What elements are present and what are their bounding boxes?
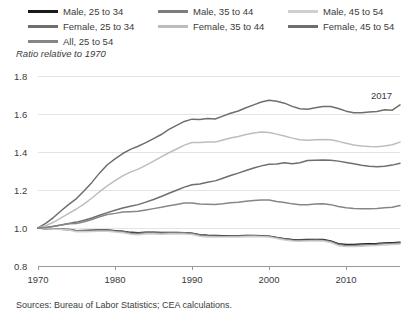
legend-label-female-25-34: Female, 25 to 34	[63, 21, 134, 32]
x-tick-mark-1980	[115, 266, 116, 270]
x-tick-mark-2010	[346, 266, 347, 270]
line-female-45-to-54	[38, 160, 400, 228]
x-tick-label-1990: 1990	[181, 274, 202, 285]
source-note: Sources: Bureau of Labor Statistics; CEA…	[16, 300, 232, 310]
legend-item-female-25-34: Female, 25 to 34	[28, 20, 134, 33]
y-axis-title: Ratio relative to 1970	[16, 48, 106, 59]
x-tick-mark-1970	[38, 266, 39, 270]
legend-item-female-35-44: Female, 35 to 44	[158, 20, 264, 33]
legend-item-female-45-54: Female, 45 to 54	[288, 20, 394, 33]
legend-label-male-35-44: Male, 35 to 44	[193, 6, 253, 17]
x-tick-mark-1990	[192, 266, 193, 270]
legend-column-1: Male, 25 to 34 Female, 25 to 34 All, 25 …	[28, 5, 134, 50]
chart-legend: Male, 25 to 34 Female, 25 to 34 All, 25 …	[0, 0, 414, 44]
legend-swatch-female-35-44	[158, 25, 188, 28]
legend-column-3: Male, 45 to 54 Female, 45 to 54	[288, 5, 394, 35]
chart-page: Male, 25 to 34 Female, 25 to 34 All, 25 …	[0, 0, 414, 322]
x-tick-label-1980: 1980	[104, 274, 125, 285]
x-tick-label-2010: 2010	[336, 274, 357, 285]
legend-item-male-35-44: Male, 35 to 44	[158, 5, 264, 18]
legend-swatch-male-35-44	[158, 10, 188, 13]
legend-swatch-male-45-54	[288, 10, 318, 13]
legend-label-male-25-34: Male, 25 to 34	[63, 6, 123, 17]
legend-label-all-25-54: All, 25 to 54	[63, 36, 113, 47]
chart-lines	[0, 62, 414, 290]
legend-swatch-all-25-54	[28, 40, 58, 43]
legend-item-male-25-34: Male, 25 to 34	[28, 5, 134, 18]
legend-label-male-45-54: Male, 45 to 54	[323, 6, 383, 17]
legend-item-all-25-54: All, 25 to 54	[28, 35, 134, 48]
x-tick-mark-2000	[269, 266, 270, 270]
line-female-25-to-34	[38, 100, 400, 228]
legend-label-female-45-54: Female, 45 to 54	[323, 21, 394, 32]
annotation-2017: 2017	[371, 90, 392, 101]
legend-column-2: Male, 35 to 44 Female, 35 to 44	[158, 5, 264, 35]
legend-item-male-45-54: Male, 45 to 54	[288, 5, 394, 18]
legend-swatch-female-45-54	[288, 25, 318, 28]
plot-area: 0.81.01.21.41.61.8 19701980199020002010 …	[0, 62, 414, 290]
legend-swatch-female-25-34	[28, 25, 58, 28]
legend-label-female-35-44: Female, 35 to 44	[193, 21, 264, 32]
legend-swatch-male-25-34	[28, 10, 58, 13]
x-tick-label-2000: 2000	[258, 274, 279, 285]
line-all-25-to-54	[38, 200, 400, 228]
x-tick-label-1970: 1970	[27, 274, 48, 285]
